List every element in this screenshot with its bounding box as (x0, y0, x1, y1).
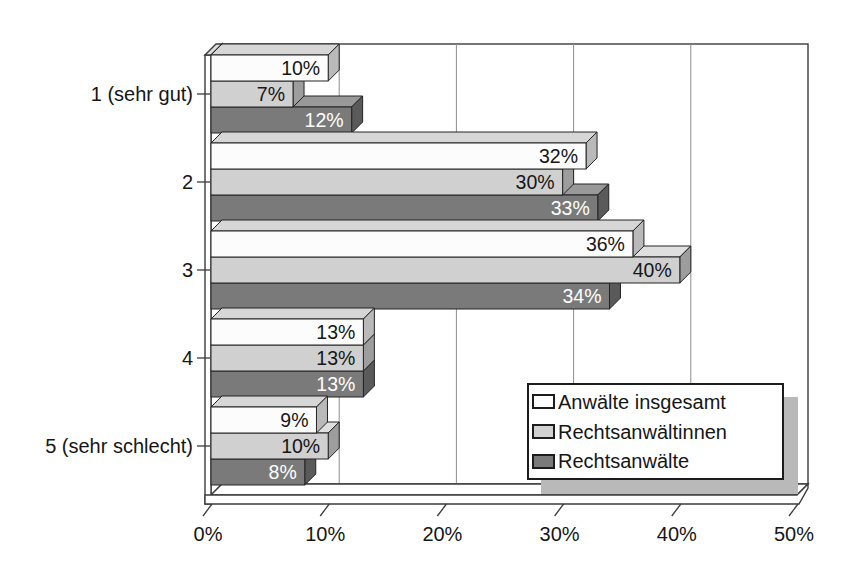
category-label: 3 (182, 259, 193, 281)
data-label: 34% (562, 285, 601, 307)
bar-top-face (211, 220, 644, 231)
data-label: 30% (516, 171, 555, 193)
x-tick-label: 0% (194, 523, 223, 545)
bar-top-face (211, 396, 327, 407)
data-label: 33% (551, 197, 590, 219)
bar-top-face (211, 44, 339, 55)
data-label: 12% (305, 109, 344, 131)
bar (211, 257, 680, 283)
x-tick-label: 50% (774, 523, 814, 545)
bar (211, 195, 598, 221)
data-label: 10% (281, 435, 320, 457)
bar (211, 143, 586, 169)
chart-svg: 0%10%20%30%40%50%1 (sehr gut)2345 (sehr … (0, 0, 846, 577)
category-label: 4 (182, 347, 193, 369)
x-tick-label: 30% (540, 523, 580, 545)
floor-top (211, 484, 808, 495)
left-wall-front (205, 55, 211, 504)
data-label: 8% (269, 461, 297, 483)
data-label: 13% (316, 321, 355, 343)
x-tick (672, 504, 681, 516)
data-label: 7% (257, 83, 285, 105)
x-tick-label: 20% (422, 523, 462, 545)
x-tick-label: 40% (657, 523, 697, 545)
x-tick (789, 504, 798, 516)
data-label: 9% (280, 409, 308, 431)
bar (211, 283, 609, 309)
x-tick-label: 10% (305, 523, 345, 545)
x-tick (437, 504, 446, 516)
plot-area: 0%10%20%30%40%50%1 (sehr gut)2345 (sehr … (0, 0, 846, 577)
data-label: 40% (633, 259, 672, 281)
x-tick (320, 504, 329, 516)
bar (211, 231, 633, 257)
data-label: 13% (316, 373, 355, 395)
category-label: 2 (182, 171, 193, 193)
bar (211, 169, 563, 195)
category-label: 1 (sehr gut) (91, 83, 193, 105)
chart: 0%10%20%30%40%50%1 (sehr gut)2345 (sehr … (0, 0, 846, 577)
data-label: 36% (586, 233, 625, 255)
category-label: 5 (sehr schlecht) (45, 435, 193, 457)
data-label: 10% (281, 57, 320, 79)
x-tick (203, 504, 212, 516)
bar-top-face (211, 308, 374, 319)
bar-top-face (211, 132, 597, 143)
data-label: 13% (316, 347, 355, 369)
data-label: 32% (539, 145, 578, 167)
x-tick (555, 504, 564, 516)
